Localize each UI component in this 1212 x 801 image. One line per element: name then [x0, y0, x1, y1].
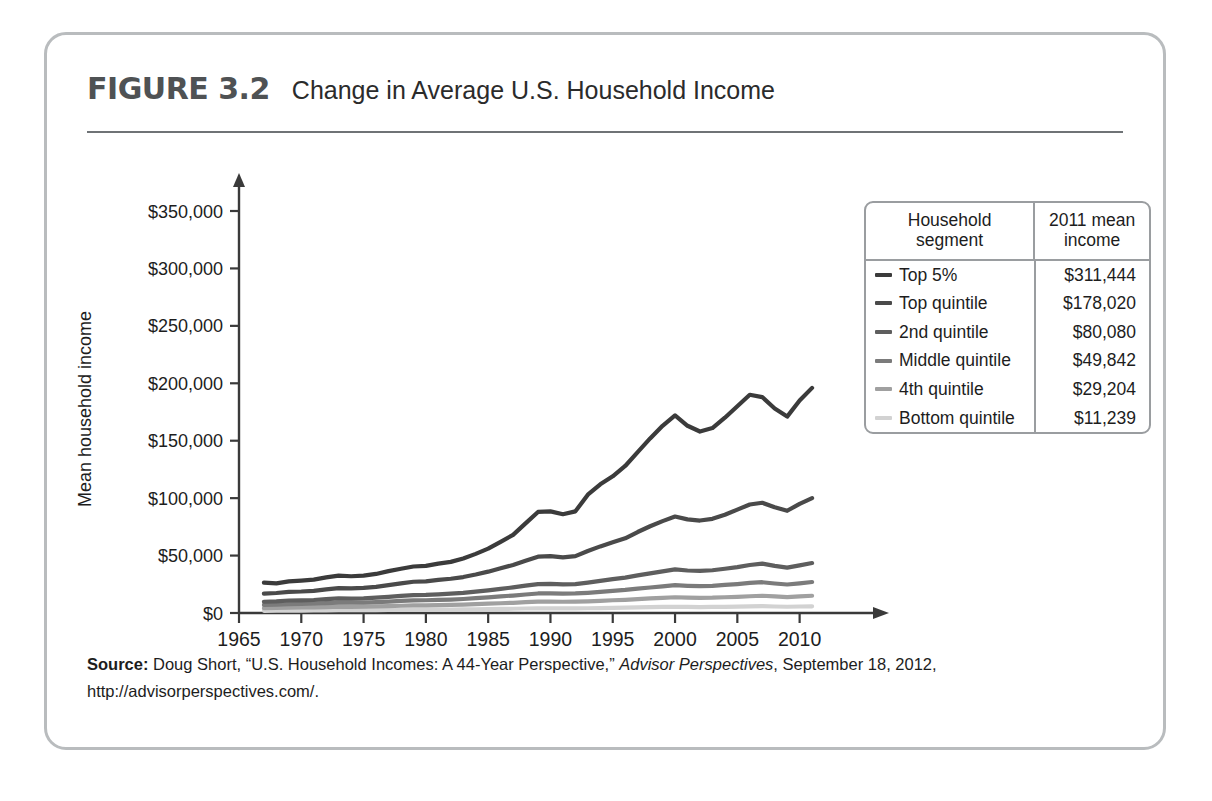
- y-axis-tick-label: $100,000: [148, 489, 223, 509]
- legend-segment-cell: Bottom quintile: [866, 404, 1036, 433]
- chart-line-series: [264, 388, 812, 583]
- legend-series-label: 2nd quintile: [899, 319, 989, 346]
- legend-header-row: Household segment 2011 mean income: [866, 203, 1149, 261]
- legend-income-value: $29,204: [1036, 375, 1149, 404]
- legend-rows: Top 5%$311,444Top quintile$178,0202nd qu…: [866, 261, 1149, 433]
- figure-number: FIGURE 3.2: [87, 71, 270, 106]
- legend-segment-cell: 4th quintile: [866, 375, 1036, 404]
- legend-row: Bottom quintile$11,239: [866, 404, 1149, 433]
- x-axis-tick-label: 1980: [404, 628, 448, 649]
- legend-line-swatch-icon: [875, 416, 892, 420]
- chart-series-group: [264, 388, 812, 611]
- legend-line-swatch-icon: [875, 330, 892, 334]
- legend-line-swatch-icon: [875, 273, 892, 277]
- legend-series-label: Top 5%: [899, 262, 957, 289]
- legend-segment-cell: Middle quintile: [866, 346, 1036, 375]
- figure-header: FIGURE 3.2 Change in Average U.S. Househ…: [87, 71, 1123, 123]
- y-axis-tick-label: $250,000: [148, 316, 223, 336]
- legend-income-value: $311,444: [1036, 261, 1149, 290]
- y-axis-tick-label: $50,000: [158, 546, 223, 566]
- legend-line-swatch-icon: [875, 359, 892, 363]
- x-axis-tick-label: 2010: [778, 628, 822, 649]
- legend-segment-cell: 2nd quintile: [866, 318, 1036, 347]
- source-date: , September 18, 2012,: [773, 655, 936, 673]
- legend-header-segment: Household segment: [866, 203, 1035, 259]
- legend-line-swatch-icon: [875, 387, 892, 391]
- x-axis-tick-label: 1995: [591, 628, 635, 649]
- legend-series-label: Middle quintile: [899, 347, 1011, 374]
- y-axis-tick-label: $150,000: [148, 431, 223, 451]
- legend-series-label: Bottom quintile: [899, 405, 1015, 432]
- y-axis: $0$50,000$100,000$150,000$200,000$250,00…: [148, 173, 245, 624]
- header-divider: [87, 131, 1123, 133]
- legend-row: 4th quintile$29,204: [866, 375, 1149, 404]
- legend-income-value: $11,239: [1036, 404, 1149, 433]
- legend-header-income-line2: income: [1039, 230, 1145, 250]
- legend-header-income-line1: 2011 mean: [1039, 210, 1145, 230]
- legend-header-segment-line1: Household: [870, 210, 1029, 230]
- y-axis-tick-label: $300,000: [148, 259, 223, 279]
- y-axis-title: Mean household income: [75, 311, 95, 507]
- x-axis-tick-label: 2000: [653, 628, 697, 649]
- figure-card: FIGURE 3.2 Change in Average U.S. Househ…: [44, 32, 1166, 750]
- legend-segment-cell: Top 5%: [866, 261, 1036, 290]
- x-axis-tick-label: 1985: [466, 628, 510, 649]
- legend-line-swatch-icon: [875, 301, 892, 305]
- x-axis-tick-label: 2005: [716, 628, 760, 649]
- legend-income-value: $80,080: [1036, 318, 1149, 347]
- legend-header-income: 2011 mean income: [1035, 203, 1149, 259]
- legend-income-value: $178,020: [1036, 289, 1149, 318]
- x-axis: 1965197019751980198519901995200020052010: [217, 607, 889, 649]
- x-axis-tick-label: 1970: [280, 628, 324, 649]
- legend-series-label: 4th quintile: [899, 376, 984, 403]
- x-axis-tick-label: 1965: [217, 628, 261, 649]
- y-axis-tick-label: $350,000: [148, 202, 223, 222]
- legend-header-segment-line2: segment: [870, 230, 1029, 250]
- legend-row: Top 5%$311,444: [866, 261, 1149, 290]
- legend-row: Top quintile$178,020: [866, 289, 1149, 318]
- y-axis-tick-label: $200,000: [148, 374, 223, 394]
- x-axis-tick-label: 1975: [342, 628, 386, 649]
- source-url: http://advisorperspectives.com/.: [87, 678, 1125, 705]
- legend-segment-cell: Top quintile: [866, 289, 1036, 318]
- legend-series-label: Top quintile: [899, 290, 988, 317]
- x-axis-tick-label: 1990: [529, 628, 573, 649]
- source-publication: Advisor Perspectives: [619, 655, 773, 673]
- source-author: Doug Short, “U.S. Household Incomes: A 4…: [148, 655, 619, 673]
- legend-row: 2nd quintile$80,080: [866, 318, 1149, 347]
- y-axis-tick-label: $0: [203, 604, 223, 624]
- figure-title: Change in Average U.S. Household Income: [292, 76, 775, 105]
- legend-income-value: $49,842: [1036, 346, 1149, 375]
- source-note: Source: Doug Short, “U.S. Household Inco…: [87, 651, 1125, 704]
- legend-row: Middle quintile$49,842: [866, 346, 1149, 375]
- legend-table: Household segment 2011 mean income Top 5…: [864, 201, 1151, 434]
- source-label: Source:: [87, 655, 148, 673]
